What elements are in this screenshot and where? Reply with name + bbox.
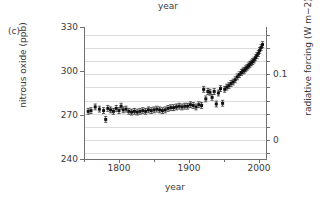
plot-area: 00.1240270300330180019002000 <box>84 27 266 159</box>
axis-left <box>84 27 85 160</box>
axis-right <box>266 27 267 160</box>
x-tick-label: 1900 <box>178 163 201 173</box>
axis-bottom <box>84 159 267 160</box>
x-tick-label: 1800 <box>108 163 131 173</box>
y-tick-label: 240 <box>61 154 78 164</box>
data-series-nitrous-oxide <box>84 27 266 159</box>
y2-tick-label: 0.1 <box>273 69 287 79</box>
figure-panel-c: year (c) nitrous oxide (ppb) radiative f… <box>0 0 336 204</box>
y-tick-label: 270 <box>61 110 78 120</box>
y2-tick-label: 0 <box>273 135 279 145</box>
y-axis-title: nitrous oxide (ppb) <box>18 9 28 121</box>
x-axis-title: year <box>84 182 266 192</box>
y-tick-label: 300 <box>61 66 78 76</box>
x-tick-label: 2000 <box>248 163 271 173</box>
y-tick-label: 330 <box>61 22 78 32</box>
top-axis-title: year <box>0 1 336 11</box>
y2-axis-title: radiative forcing (W m−2) <box>303 0 313 120</box>
